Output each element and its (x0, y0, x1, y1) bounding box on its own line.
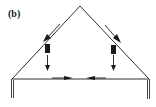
left-post (12, 79, 14, 98)
left-vertical-arrow-icon (45, 55, 50, 71)
right-vertical-arrow-icon (111, 55, 116, 71)
left-rafter-arrow-icon (43, 24, 60, 42)
left-load-block (45, 44, 50, 53)
truss-diagram: (b) (0, 0, 156, 107)
truss-drawing (0, 0, 156, 107)
right-load-block (111, 45, 116, 54)
right-post (148, 79, 150, 99)
left-rafter (12, 6, 80, 79)
